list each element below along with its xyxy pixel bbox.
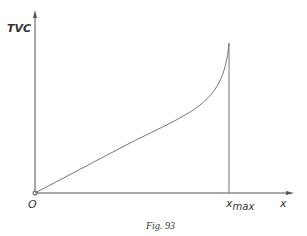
origin-label: O — [28, 198, 37, 211]
y-axis-label: TVC — [7, 22, 31, 35]
x-axis-label: x — [280, 197, 287, 210]
y-axis-arrow-icon — [33, 10, 37, 18]
figure-caption: Fig. 93 — [146, 220, 175, 231]
xmax-label: xmax — [226, 197, 254, 212]
tvc-curve — [35, 43, 229, 193]
x-axis-arrow-icon — [286, 191, 294, 195]
xmax-subscript: max — [233, 201, 255, 212]
chart-canvas — [0, 0, 307, 236]
